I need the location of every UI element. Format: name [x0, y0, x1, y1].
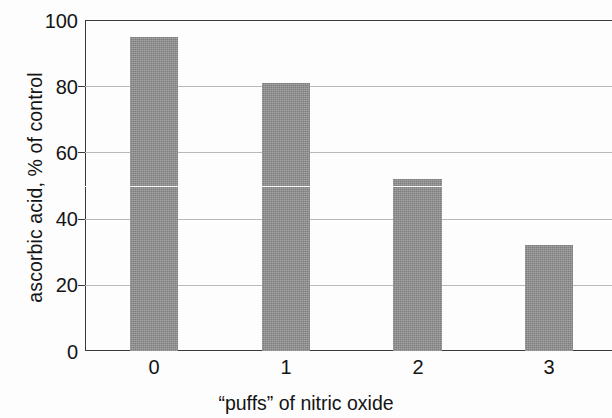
y-tick-label-80: 80: [14, 77, 78, 97]
y-tick-label-0: 0: [14, 342, 78, 362]
y-axis-tick-labels: 100 80 60 40 20 0: [10, 0, 78, 418]
plot-area: [85, 20, 612, 351]
plot-top-border: [85, 20, 612, 21]
y-tickmark-80: [78, 86, 85, 87]
y-tick-label-60: 60: [14, 143, 78, 163]
x-tick-label-0: 0: [114, 357, 194, 377]
y-tick-label-40: 40: [14, 209, 78, 229]
y-tickmark-60: [78, 152, 85, 153]
x-tick-label-1: 1: [246, 357, 326, 377]
x-tick-label-2: 2: [378, 357, 458, 377]
y-tick-label-20: 20: [14, 275, 78, 295]
x-tick-label-3: 3: [509, 357, 589, 377]
bar-chart-figure: ascorbic acid, % of control 100 80 60 40…: [0, 0, 612, 418]
bar-category-2: [393, 179, 442, 351]
white-gridline-50: [85, 186, 612, 187]
x-axis-title: “puffs” of nitric oxide: [0, 392, 612, 415]
bar-category-1: [262, 83, 310, 351]
y-tickmark-40: [78, 219, 85, 220]
bar-category-3: [525, 245, 573, 351]
y-tickmark-20: [78, 285, 85, 286]
y-tick-label-100: 100: [14, 11, 78, 31]
bar-category-0: [130, 37, 178, 352]
